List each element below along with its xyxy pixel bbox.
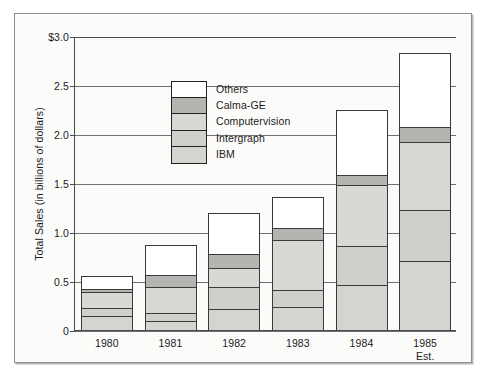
bar-segment-calma-ge bbox=[209, 255, 259, 269]
bar-segment-ibm bbox=[82, 317, 132, 330]
x-tick-label: 1983 bbox=[263, 337, 333, 350]
y-tick-mark bbox=[70, 282, 75, 283]
bar-segment-ibm bbox=[337, 286, 387, 330]
chart-figure-frame: Total Sales (in billions of dollars) $3.… bbox=[14, 13, 472, 363]
y-tick-label: 2.5 bbox=[54, 80, 69, 92]
bar-segment-ibm bbox=[146, 322, 196, 330]
bar-segment-computervision bbox=[337, 186, 387, 247]
stacked-bar bbox=[208, 213, 260, 330]
x-tick-label: 1980 bbox=[72, 337, 142, 350]
y-tick-label: 1.0 bbox=[54, 227, 69, 239]
y-tick-mark bbox=[70, 37, 75, 38]
y-tick-label: 1.5 bbox=[54, 178, 69, 190]
plot-area: $3.02.52.01.51.00.50 1980198119821983198… bbox=[74, 37, 456, 331]
y-tick-label: 0.5 bbox=[54, 276, 69, 288]
y-tick-label: $3.0 bbox=[48, 31, 69, 43]
bar-segment-others bbox=[337, 111, 387, 176]
x-axis-label-group: 1985Est. bbox=[390, 337, 460, 362]
legend-label-column: OthersCalma-GEComputervisionIntergraphIB… bbox=[216, 81, 290, 164]
bar-segment-others bbox=[273, 198, 323, 229]
x-axis-label-group: 1984 bbox=[327, 337, 397, 350]
gridline bbox=[75, 331, 456, 332]
chart-legend: OthersCalma-GEComputervisionIntergraphIB… bbox=[171, 81, 290, 164]
x-tick-label: 1985 bbox=[390, 337, 460, 350]
legend-swatch-ibm bbox=[172, 147, 206, 163]
legend-swatch-computervision bbox=[172, 114, 206, 130]
legend-label-calma-ge: Calma-GE bbox=[216, 97, 290, 113]
bar-segment-intergraph bbox=[337, 247, 387, 286]
bar-segment-others bbox=[146, 246, 196, 276]
stacked-bar bbox=[336, 110, 388, 331]
bar-segment-others bbox=[209, 214, 259, 255]
legend-label-others: Others bbox=[216, 81, 290, 97]
bar-segment-intergraph bbox=[146, 314, 196, 323]
bar-segment-computervision bbox=[400, 143, 450, 211]
x-tick-label-sub: Est. bbox=[390, 350, 460, 363]
bar-segment-computervision bbox=[209, 269, 259, 288]
bar-segment-computervision bbox=[82, 293, 132, 308]
bar-segment-intergraph bbox=[209, 288, 259, 309]
gridline bbox=[75, 37, 456, 38]
y-tick-mark bbox=[70, 331, 75, 332]
bar-segment-calma-ge bbox=[337, 176, 387, 186]
x-tick-label: 1981 bbox=[136, 337, 206, 350]
legend-label-ibm: IBM bbox=[216, 146, 290, 162]
y-axis-title-text: Total Sales (in billions of dollars) bbox=[33, 107, 45, 261]
legend-swatch-others bbox=[172, 82, 206, 98]
y-tick-mark bbox=[70, 86, 75, 87]
stacked-bar bbox=[272, 197, 324, 330]
legend-label-computervision: Computervision bbox=[216, 113, 290, 129]
x-tick-label: 1984 bbox=[327, 337, 397, 350]
stacked-bar bbox=[399, 53, 451, 330]
legend-swatch-calma-ge bbox=[172, 98, 206, 114]
x-axis-label-group: 1980 bbox=[72, 337, 142, 350]
y-tick-label: 2.0 bbox=[54, 129, 69, 141]
stacked-bar bbox=[81, 276, 133, 330]
bar-segment-ibm bbox=[273, 308, 323, 330]
bar-segment-calma-ge bbox=[146, 276, 196, 289]
y-tick-mark bbox=[70, 135, 75, 136]
x-axis-label-group: 1982 bbox=[199, 337, 269, 350]
x-axis-label-group: 1983 bbox=[263, 337, 333, 350]
bar-segment-ibm bbox=[400, 262, 450, 330]
y-axis-title: Total Sales (in billions of dollars) bbox=[31, 37, 47, 331]
bar-segment-intergraph bbox=[400, 211, 450, 262]
bar-segment-ibm bbox=[209, 310, 259, 330]
legend-swatch-column bbox=[171, 81, 207, 164]
y-tick-mark bbox=[70, 184, 75, 185]
bar-segment-calma-ge bbox=[400, 128, 450, 143]
bar-segment-others bbox=[82, 277, 132, 290]
bar-segment-computervision bbox=[146, 288, 196, 313]
x-tick-label: 1982 bbox=[199, 337, 269, 350]
y-tick-mark bbox=[70, 233, 75, 234]
y-tick-label: 0 bbox=[63, 325, 69, 337]
legend-swatch-intergraph bbox=[172, 131, 206, 147]
bar-segment-computervision bbox=[273, 241, 323, 292]
bar-segment-intergraph bbox=[82, 309, 132, 317]
bar-segment-calma-ge bbox=[273, 229, 323, 241]
bar-segment-others bbox=[400, 54, 450, 128]
legend-label-intergraph: Intergraph bbox=[216, 130, 290, 146]
bar-segment-intergraph bbox=[273, 291, 323, 308]
stacked-bar bbox=[145, 245, 197, 330]
x-axis-label-group: 1981 bbox=[136, 337, 206, 350]
